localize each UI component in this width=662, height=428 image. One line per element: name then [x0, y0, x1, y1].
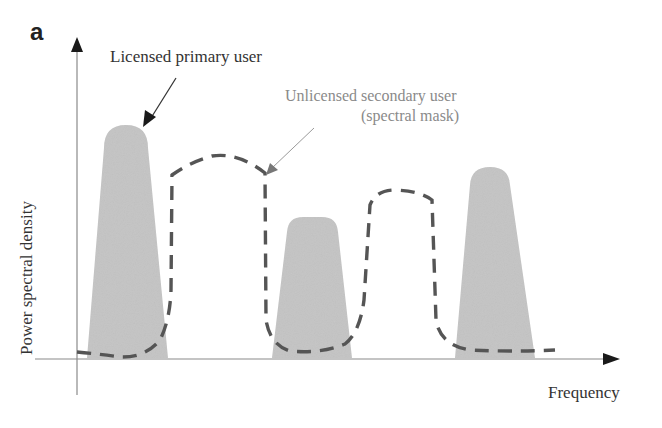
panel-label: a	[30, 18, 43, 46]
primary-user-peak-2	[272, 217, 352, 358]
y-axis-arrowhead-icon	[71, 37, 83, 52]
secondary-user-pointer-line	[272, 128, 314, 168]
primary-user-peak-1	[87, 125, 168, 358]
spectral-mask-label: (spectral mask)	[361, 107, 459, 125]
spectrum-sharing-diagram: a Licensed primary user Unlicensed secon…	[0, 0, 662, 428]
y-axis-label: Power spectral density	[17, 201, 37, 355]
diagram-canvas	[0, 0, 662, 428]
primary-user-peak-3	[455, 167, 535, 358]
primary-user-pointer-line	[151, 78, 176, 118]
x-axis-arrowhead-icon	[603, 353, 620, 365]
x-axis-label: Frequency	[548, 383, 620, 403]
secondary-user-pointer-arrowhead-icon	[266, 163, 278, 175]
primary-user-label: Licensed primary user	[110, 47, 262, 67]
secondary-user-label: Unlicensed secondary user	[285, 87, 457, 105]
